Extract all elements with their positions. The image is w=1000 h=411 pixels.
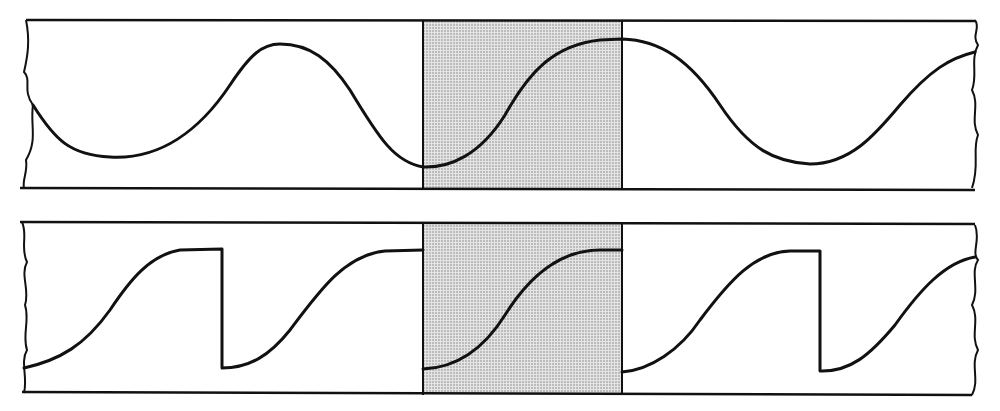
torn-edge-left-top bbox=[24, 20, 33, 188]
torn-edge-right-bottom bbox=[972, 225, 978, 395]
bottom-border-top-panel bbox=[20, 188, 975, 190]
torn-edge-right-top bbox=[972, 20, 978, 188]
top-border-top-panel bbox=[26, 20, 975, 21]
waveform-diagram bbox=[0, 0, 1000, 411]
bottom-border-bottom-panel bbox=[22, 392, 972, 395]
sine-strip-panel bbox=[20, 20, 978, 190]
shaded-window-bottom bbox=[423, 223, 622, 393]
sawtooth-strip-panel bbox=[20, 222, 978, 395]
top-border-bottom-panel bbox=[20, 222, 975, 224]
